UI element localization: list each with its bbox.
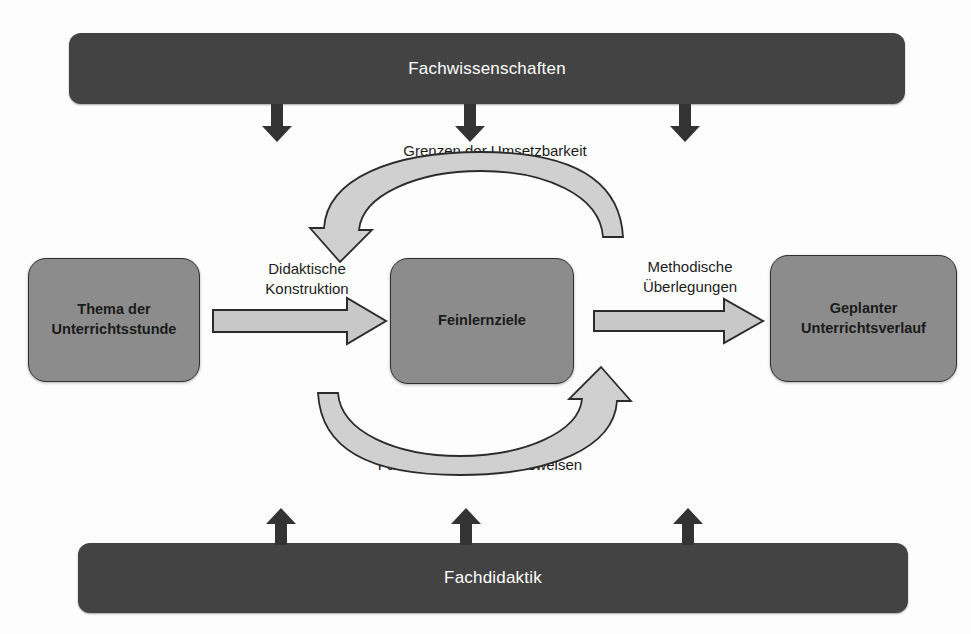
down-arrow-icon-2: [455, 104, 485, 142]
box-thema-label: Thema der Unterrichtsstunde: [29, 300, 199, 339]
box-geplanter-label: Geplanter Unterrichtsverlauf: [771, 299, 956, 338]
up-arrow-icon-3: [673, 508, 703, 545]
label-grenzen-der-umsetzbarkeit: Grenzen der Umsetzbarkeit: [385, 141, 605, 161]
down-arrow-icon-3: [670, 104, 700, 142]
up-arrow-icon-2: [451, 508, 481, 545]
box-thema-der-unterrichtsstunde: Thema der Unterrichtsstunde: [28, 258, 200, 382]
label-methodische-ueberlegungen: Methodische Überlegungen: [600, 257, 780, 297]
label-fachspezifische-arbeitsweisen: Fachspezifische Arbeitsweisen: [330, 455, 630, 475]
down-arrow-icon-1: [262, 104, 292, 142]
box-feinlernziele-label: Feinlernziele: [438, 311, 526, 331]
block-arrow-right-icon-didaktische: [213, 298, 386, 344]
curved-arrow-left-icon: [310, 152, 623, 262]
box-geplanter-unterrichtsverlauf: Geplanter Unterrichtsverlauf: [770, 255, 957, 382]
box-feinlernziele: Feinlernziele: [390, 258, 574, 384]
bar-fachdidaktik: Fachdidaktik: [78, 543, 908, 613]
label-didaktische-konstruktion: Didaktische Konstruktion: [227, 259, 387, 299]
bar-bottom-label: Fachdidaktik: [444, 568, 542, 588]
diagram-canvas: Fachwissenschaften Fachdidaktik Thema de…: [0, 0, 971, 634]
bar-fachwissenschaften: Fachwissenschaften: [69, 33, 905, 104]
bar-top-label: Fachwissenschaften: [408, 59, 566, 79]
up-arrow-icon-1: [266, 508, 296, 545]
block-arrow-right-icon-methodische: [594, 299, 763, 343]
